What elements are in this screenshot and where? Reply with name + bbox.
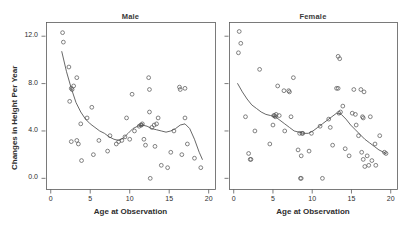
data-point <box>156 116 160 120</box>
x-tick-label: 5 <box>261 195 285 202</box>
data-point <box>128 137 132 141</box>
data-point <box>169 150 173 154</box>
data-point <box>72 84 76 88</box>
data-point <box>91 153 95 157</box>
data-point <box>331 143 335 147</box>
data-point <box>147 76 151 80</box>
data-point <box>361 157 365 161</box>
data-point <box>361 116 365 120</box>
data-point <box>282 89 286 93</box>
data-point <box>258 67 262 71</box>
data-point <box>289 115 293 119</box>
data-point <box>97 139 101 143</box>
x-tick-label: 10 <box>118 195 142 202</box>
y-tick-label: 12.0 <box>12 31 38 38</box>
data-point <box>291 76 295 80</box>
data-point <box>133 129 137 133</box>
data-point <box>239 41 243 45</box>
trend-line <box>62 52 203 160</box>
panel-female <box>225 23 398 194</box>
data-point <box>374 163 378 167</box>
data-point <box>159 163 163 167</box>
data-point <box>288 90 292 94</box>
data-point <box>373 142 377 146</box>
data-point <box>75 76 79 80</box>
data-point <box>321 176 325 180</box>
data-point <box>61 40 65 44</box>
data-point <box>268 142 272 146</box>
data-point <box>368 115 372 119</box>
data-point <box>299 154 303 158</box>
data-point <box>142 137 146 141</box>
data-point <box>125 116 129 120</box>
data-point <box>341 104 345 108</box>
data-point <box>378 134 382 138</box>
data-point <box>237 30 241 34</box>
data-point <box>367 163 371 167</box>
data-point <box>185 142 189 146</box>
data-point <box>352 88 356 92</box>
data-point <box>370 159 374 163</box>
x-tick-label: 15 <box>157 195 181 202</box>
data-point <box>69 140 73 144</box>
data-point <box>343 147 347 151</box>
data-point <box>130 92 134 96</box>
data-point <box>360 150 364 154</box>
x-tick-label: 5 <box>78 195 102 202</box>
panel-male <box>42 23 216 194</box>
data-point <box>148 88 152 92</box>
data-point <box>61 31 65 35</box>
panel-border <box>230 23 398 190</box>
data-point <box>362 90 366 94</box>
data-point <box>148 110 152 114</box>
data-point <box>178 85 182 89</box>
x-tick-label: 0 <box>222 195 246 202</box>
data-point <box>90 105 94 109</box>
x-tick-label: 0 <box>39 195 63 202</box>
data-point <box>271 123 275 127</box>
data-point <box>67 65 71 69</box>
data-point <box>363 165 367 169</box>
data-point <box>106 149 110 153</box>
data-point <box>68 99 72 103</box>
data-point <box>276 84 280 88</box>
x-tick-label: 15 <box>339 195 363 202</box>
data-point <box>244 115 248 119</box>
data-point <box>283 129 287 133</box>
data-point <box>153 144 157 148</box>
data-point <box>76 142 80 146</box>
data-point <box>365 154 369 158</box>
data-point <box>347 154 351 158</box>
x-tick-label: 20 <box>197 195 221 202</box>
data-point <box>183 86 187 90</box>
y-tick-label: 4.0 <box>12 126 38 133</box>
data-point <box>237 51 241 55</box>
data-point <box>148 176 152 180</box>
x-tick-label: 10 <box>300 195 324 202</box>
data-point <box>80 159 84 163</box>
data-point <box>307 149 311 153</box>
data-point <box>180 153 184 157</box>
x-tick-label: 20 <box>379 195 403 202</box>
data-point <box>183 116 187 120</box>
data-point <box>114 142 118 146</box>
data-point <box>166 166 170 170</box>
data-point <box>178 88 182 92</box>
data-point <box>199 166 203 170</box>
data-point <box>247 152 251 156</box>
data-point <box>144 143 148 147</box>
figure-container: Male Female Changes in Height Per Year A… <box>0 0 408 231</box>
data-point <box>79 122 83 126</box>
data-point <box>328 126 332 130</box>
data-point <box>296 148 300 152</box>
data-point <box>253 129 257 133</box>
panel-border <box>47 23 216 190</box>
y-tick-label: 0.0 <box>12 173 38 180</box>
data-point <box>193 156 197 160</box>
y-tick-label: 8.0 <box>12 79 38 86</box>
data-point <box>354 123 358 127</box>
